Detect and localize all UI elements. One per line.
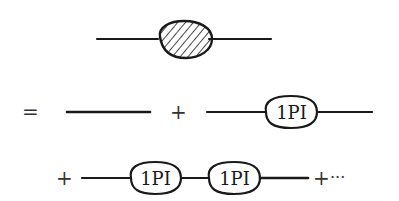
expansion-row-1: = + 1PI — [22, 96, 372, 128]
1pi-label: 1PI — [140, 168, 171, 189]
diagram-canvas: = + 1PI + 1PI 1PI + ··· — [0, 0, 399, 201]
ellipsis: ··· — [330, 168, 345, 187]
1pi-vertex: 1PI — [266, 96, 317, 128]
expansion-row-2: + 1PI 1PI + ··· — [56, 162, 345, 194]
plus-sign: + — [313, 166, 330, 190]
equals-sign: = — [22, 100, 39, 124]
1pi-vertex: 1PI — [209, 162, 260, 194]
hatched-blob-icon — [160, 21, 212, 58]
plus-sign: + — [170, 100, 187, 124]
1pi-vertex: 1PI — [131, 162, 181, 194]
plus-sign: + — [56, 166, 73, 190]
1pi-label: 1PI — [276, 102, 307, 123]
1pi-label: 1PI — [219, 168, 250, 189]
full-propagator — [97, 21, 271, 58]
